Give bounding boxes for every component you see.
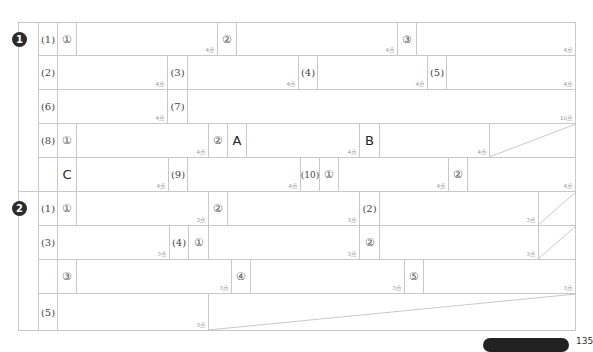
label-2-4-blank — [38, 259, 58, 294]
label-2-1-sub1: ① — [57, 191, 77, 226]
page-number: 135 — [576, 336, 593, 346]
answer-1-7[interactable]: 10点 — [187, 89, 576, 124]
answer-2-1-1[interactable]: 3点 — [76, 191, 209, 226]
footer-badge — [483, 338, 569, 352]
answer-1-4[interactable]: 4点 — [317, 55, 428, 90]
answer-1-6[interactable]: 4点 — [57, 89, 168, 124]
label-2-4: (4) — [169, 225, 189, 260]
label-1-10-sub1: ① — [319, 157, 339, 192]
answer-2-4-2[interactable]: 3点 — [379, 225, 539, 260]
label-2-2: (2) — [359, 191, 380, 226]
label-B: B — [359, 123, 380, 158]
answer-1-5[interactable]: 4点 — [446, 55, 576, 90]
answer-1-8-A[interactable]: 4点 — [246, 123, 360, 158]
label-1-3: (3) — [167, 55, 188, 90]
answer-1-8-C[interactable]: 4点 — [76, 157, 169, 192]
diagonal-strike-2-2 — [538, 191, 576, 226]
label-2-4-sub4: ④ — [231, 259, 251, 294]
section-1-column — [18, 22, 39, 191]
answer-2-3[interactable]: 3点 — [57, 225, 170, 260]
section-1-badge: 1 — [12, 32, 27, 47]
label-2-4-sub5: ⑤ — [404, 259, 424, 294]
label-2-1-sub2: ② — [208, 191, 228, 226]
answer-2-1-2[interactable]: 3点 — [227, 191, 360, 226]
label-1-6: (6) — [38, 89, 58, 124]
answer-1-2[interactable]: 4点 — [57, 55, 168, 90]
diagonal-strike-1-8 — [489, 123, 576, 158]
label-1-4: (4) — [298, 55, 318, 90]
label-C: C — [57, 157, 77, 192]
answer-1-8-B[interactable]: 4点 — [379, 123, 490, 158]
diagonal-strike-2-5 — [208, 293, 576, 331]
label-1-5: (5) — [427, 55, 447, 90]
answer-1-1-1[interactable]: 4点 — [76, 22, 218, 56]
label-1-1: (1) — [38, 22, 58, 56]
label-2-4-sub1: ① — [188, 225, 209, 260]
label-1-2: (2) — [38, 55, 58, 90]
label-1-10: (10) — [300, 157, 320, 192]
answer-1-3[interactable]: 4点 — [187, 55, 299, 90]
answer-1-1-3[interactable]: 4点 — [416, 22, 576, 56]
answer-2-4-1[interactable]: 3点 — [208, 225, 360, 260]
label-1-1-sub2: ② — [217, 22, 237, 56]
label-1-10-sub2: ② — [448, 157, 468, 192]
label-2-4-sub2: ② — [359, 225, 380, 260]
label-1-1-sub3: ③ — [397, 22, 417, 56]
label-1-8-sub1: ① — [57, 123, 77, 158]
answer-1-10-1[interactable]: 4点 — [338, 157, 449, 192]
label-1-8-sub2: ② — [208, 123, 228, 158]
label-1-8-blank — [38, 157, 58, 192]
label-2-3: (3) — [38, 225, 58, 260]
label-A: A — [227, 123, 247, 158]
label-1-8: (8) — [38, 123, 58, 158]
label-2-5: (5) — [38, 293, 58, 331]
label-2-4-sub3: ③ — [57, 259, 77, 294]
answer-2-4-4[interactable]: 3点 — [250, 259, 405, 294]
answer-1-9[interactable]: 4点 — [187, 157, 301, 192]
label-1-9: (9) — [168, 157, 188, 192]
section-2-badge: 2 — [12, 201, 27, 216]
answer-2-4-3[interactable]: 3点 — [76, 259, 232, 294]
label-2-1: (1) — [38, 191, 58, 226]
label-1-7: (7) — [167, 89, 188, 124]
answer-1-1-2[interactable]: 4点 — [236, 22, 398, 56]
diagonal-strike-2-4 — [538, 225, 576, 260]
answer-1-8-1[interactable]: 4点 — [76, 123, 209, 158]
answer-2-4-5[interactable]: 3点 — [423, 259, 576, 294]
label-1-1-sub1: ① — [57, 22, 77, 56]
answer-2-5[interactable]: 3点 — [57, 293, 209, 331]
answer-1-10-2[interactable]: 4点 — [467, 157, 576, 192]
answer-2-2[interactable]: 3点 — [379, 191, 539, 226]
